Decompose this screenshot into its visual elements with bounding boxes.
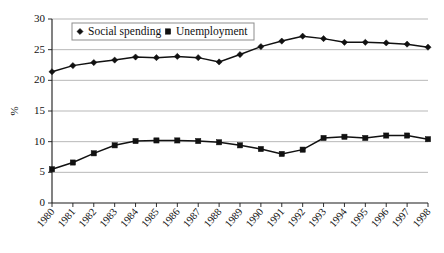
legend-item-unemployment[interactable]: Unemployment xyxy=(165,25,248,38)
data-point xyxy=(363,135,368,140)
data-point xyxy=(154,138,159,143)
data-point xyxy=(91,151,96,156)
data-point xyxy=(425,137,430,142)
data-point xyxy=(112,143,117,148)
data-point xyxy=(342,134,347,139)
data-point xyxy=(405,133,410,138)
legend-square-marker-icon xyxy=(165,29,170,34)
data-point xyxy=(49,167,54,172)
y-axis-label: % xyxy=(8,106,20,115)
data-point xyxy=(237,143,242,148)
line-chart: 051015202530 198019811982198319841985198… xyxy=(0,0,444,253)
legend-item-social-spending[interactable]: Social spending xyxy=(77,25,161,38)
data-point xyxy=(175,138,180,143)
data-point xyxy=(279,151,284,156)
y-tick-label: 15 xyxy=(34,104,46,116)
data-point xyxy=(196,138,201,143)
data-point xyxy=(300,147,305,152)
data-point xyxy=(258,146,263,151)
y-tick-label: 5 xyxy=(40,165,46,177)
y-tick-label: 10 xyxy=(34,135,46,147)
y-tick-label: 25 xyxy=(34,43,46,55)
y-tick-label: 0 xyxy=(40,196,46,208)
data-point xyxy=(133,138,138,143)
y-tick-label: 30 xyxy=(34,12,46,24)
y-tick-label: 20 xyxy=(34,73,46,85)
data-point xyxy=(70,160,75,165)
chart-container: 051015202530 198019811982198319841985198… xyxy=(0,0,444,253)
data-point xyxy=(384,133,389,138)
legend-label: Social spending xyxy=(88,25,161,38)
data-point xyxy=(217,140,222,145)
data-point xyxy=(321,135,326,140)
legend-label: Unemployment xyxy=(176,25,248,38)
y-axis-title: % xyxy=(8,106,20,115)
chart-legend: Social spendingUnemployment xyxy=(72,23,254,40)
